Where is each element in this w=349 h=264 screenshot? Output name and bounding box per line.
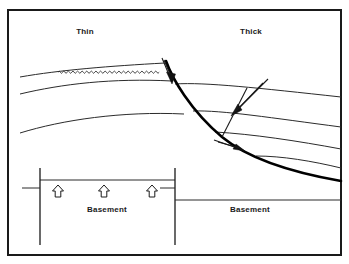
unconformity-wavy-line (58, 71, 159, 73)
horizon-left-1 (20, 63, 165, 77)
left-horizons-group (20, 63, 184, 133)
horizon-right-2 (193, 111, 341, 127)
slip-arrow-top (162, 58, 176, 84)
uplift-arrows-group (53, 185, 158, 197)
uplift-arrow-3 (147, 185, 158, 197)
unconformity-path (58, 71, 159, 73)
uplift-arrow-2 (99, 185, 110, 197)
cross-section-canvas: Thin Thick Basement Basement (0, 0, 349, 264)
label-basement-left: Basement (87, 205, 127, 214)
uplift-arrow-1 (53, 185, 64, 197)
geological-cross-section-figure: Thin Thick Basement Basement (0, 0, 349, 264)
slip-arrow-middle (231, 79, 268, 116)
horizon-right-1 (175, 84, 341, 97)
label-basement-right: Basement (230, 205, 270, 214)
right-horizons-group (175, 84, 341, 168)
label-thick: Thick (240, 27, 262, 36)
basement-structure-group (22, 168, 341, 245)
listric-normal-fault (166, 61, 341, 181)
slip-arrow-top-head (167, 72, 176, 84)
label-thin: Thin (76, 27, 94, 36)
horizon-left-2 (20, 80, 172, 94)
horizon-left-3 (20, 113, 184, 133)
